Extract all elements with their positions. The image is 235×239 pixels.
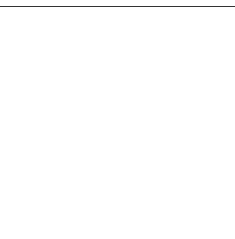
coordinate-grid: [0, 0, 235, 239]
